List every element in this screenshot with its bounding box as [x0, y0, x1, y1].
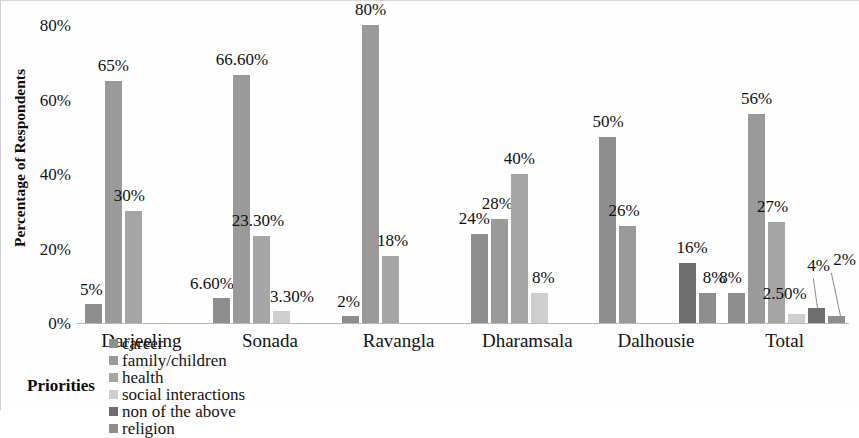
- bar-group: 8%56%27%2.50%4%2%: [720, 25, 849, 323]
- bar[interactable]: [599, 137, 616, 323]
- bar-value-label: 3.30%: [259, 288, 325, 305]
- bar-group: 2%80%18%: [334, 25, 463, 323]
- bar-group: 6.60%66.60%23.30%3.30%: [206, 25, 335, 323]
- bar-value-label: 2%: [825, 251, 859, 268]
- bar[interactable]: [273, 311, 290, 323]
- y-tick-label: 60%: [1, 92, 71, 109]
- chart-legend: Priorities careerfamily/childrenhealthso…: [27, 373, 857, 399]
- bar-group: 50%26%16%8%: [592, 25, 721, 323]
- legend-label: non of the above: [122, 403, 236, 420]
- y-tick-label: 20%: [1, 241, 71, 258]
- legend-item[interactable]: religion: [109, 420, 245, 437]
- bar-value-label: 30%: [109, 187, 149, 204]
- bar-value-label: 16%: [672, 239, 712, 256]
- legend-label: career: [122, 335, 164, 352]
- bar-value-label: 80%: [351, 1, 391, 18]
- bar[interactable]: [808, 308, 825, 323]
- legend-swatch-icon: [109, 373, 118, 382]
- bar[interactable]: [699, 293, 716, 323]
- bar-value-label: 40%: [499, 150, 539, 167]
- bar[interactable]: [788, 314, 805, 323]
- bar-value-label: 8%: [711, 269, 751, 286]
- legend-item[interactable]: social interactions: [109, 386, 245, 403]
- legend-swatch-icon: [109, 424, 118, 433]
- y-tick-label: 80%: [1, 17, 71, 34]
- bar-value-label: 26%: [604, 202, 644, 219]
- x-axis-line: [77, 323, 849, 324]
- legend-label: health: [122, 369, 164, 386]
- bar[interactable]: [728, 293, 745, 323]
- legend-item[interactable]: health: [109, 369, 245, 386]
- legend-label: family/children: [122, 352, 227, 369]
- legend-label: social interactions: [122, 386, 245, 403]
- x-tick-label: Dharamsala: [463, 331, 592, 350]
- bar-value-label: 2.50%: [752, 285, 818, 302]
- bar-value-label: 23.30%: [225, 212, 291, 229]
- bar[interactable]: [768, 222, 785, 323]
- legend-item[interactable]: non of the above: [109, 403, 245, 420]
- y-axis-tick-labels: 0%20%40%60%80%: [1, 1, 73, 411]
- legend-swatch-icon: [109, 390, 118, 399]
- legend-swatch-icon: [109, 407, 118, 416]
- bar[interactable]: [233, 75, 250, 323]
- legend-item[interactable]: family/children: [109, 352, 245, 369]
- x-tick-label: Total: [720, 331, 849, 350]
- bar-value-label: 65%: [93, 57, 133, 74]
- legend-swatch-icon: [109, 339, 118, 348]
- bar[interactable]: [213, 298, 230, 323]
- legend-item[interactable]: career: [109, 335, 245, 352]
- bar[interactable]: [511, 174, 528, 323]
- legend-label: religion: [122, 420, 175, 437]
- bar-value-label: 50%: [588, 113, 628, 130]
- bar[interactable]: [491, 219, 508, 323]
- y-tick-label: 40%: [1, 166, 71, 183]
- bar[interactable]: [382, 256, 399, 323]
- bar-value-label: 66.60%: [209, 51, 275, 68]
- bar[interactable]: [531, 293, 548, 323]
- bar[interactable]: [85, 304, 102, 323]
- bar-value-label: 18%: [373, 232, 413, 249]
- y-tick-label: 0%: [1, 315, 71, 332]
- bar-value-label: 27%: [753, 198, 793, 215]
- bar[interactable]: [342, 316, 359, 323]
- x-tick-label: Dalhousie: [592, 331, 721, 350]
- bar[interactable]: [253, 236, 270, 323]
- bar[interactable]: [362, 25, 379, 323]
- legend-swatch-icon: [109, 356, 118, 365]
- plot-area: 5%65%30%6.60%66.60%23.30%3.30%2%80%18%24…: [77, 25, 849, 323]
- bar-value-label: 8%: [523, 269, 563, 286]
- bar[interactable]: [125, 211, 142, 323]
- label-leader-line: [831, 272, 841, 315]
- legend-title: Priorities: [27, 376, 95, 396]
- bar[interactable]: [471, 234, 488, 323]
- bar[interactable]: [619, 226, 636, 323]
- legend-items: careerfamily/childrenhealthsocial intera…: [109, 335, 257, 437]
- x-tick-label: Ravangla: [334, 331, 463, 350]
- bar[interactable]: [828, 316, 845, 323]
- bar-group: 24%28%40%8%: [463, 25, 592, 323]
- bar-value-label: 56%: [737, 90, 777, 107]
